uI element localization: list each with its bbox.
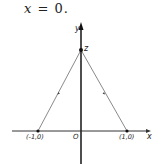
coordinate-diagram: y z O (-1,0) (1,0) x <box>0 0 161 164</box>
segment-left <box>38 50 81 131</box>
point-plus-one-label: (1,0) <box>119 133 134 141</box>
origin-label: O <box>73 133 79 141</box>
point-minus-one-label: (-1,0) <box>26 133 44 141</box>
segment-right <box>81 50 127 131</box>
point-z-label: z <box>83 44 89 53</box>
x-axis-label: x <box>146 132 152 141</box>
point-z <box>79 48 83 52</box>
y-axis-label: y <box>74 24 80 33</box>
